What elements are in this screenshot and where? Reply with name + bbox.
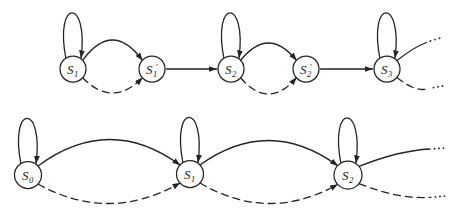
continuation-dot-b2-dashed-2	[444, 195, 446, 197]
continuation-b2-solid	[359, 149, 430, 166]
self-loop-a3	[377, 13, 396, 59]
continuation-dot-b2-solid-1	[438, 147, 440, 149]
state-node-a3: S3	[374, 56, 400, 82]
state-node-a1p: S1′	[139, 56, 165, 82]
self-loop-b2	[338, 118, 357, 164]
continuation-dot-b2-dashed-0	[435, 196, 437, 198]
state-node-b1: S1	[177, 161, 204, 188]
continuation-dot-b2-solid-0	[434, 148, 436, 150]
continuation-dot-a3-dashed-1	[437, 86, 439, 88]
continuation-dot-a3-solid-1	[434, 39, 436, 41]
edge-a1-a1p-solid	[83, 40, 143, 60]
edge-a2-a2p-dashed	[241, 78, 297, 94]
continuation-dot-a3-solid-2	[439, 37, 441, 39]
self-loop-a2	[221, 13, 240, 59]
continuation-a3-dashed	[397, 77, 429, 89]
continuation-a3-solid	[397, 43, 427, 61]
state-node-b2: S2	[334, 161, 362, 189]
edge-layer	[18, 13, 445, 204]
state-transition-diagram: S1S1′S2S2′S3S0S1S2	[0, 0, 467, 220]
self-loop-b1	[180, 117, 199, 163]
self-loop-a1	[63, 13, 82, 59]
continuation-dot-b2-solid-2	[443, 147, 445, 149]
edge-b1-b2-dashed	[200, 183, 338, 203]
state-node-a1: S1	[60, 56, 86, 82]
self-loop-b0	[18, 118, 37, 164]
continuation-dot-b2-dashed-1	[439, 196, 441, 198]
continuation-dot-a3-dashed-2	[442, 85, 444, 87]
edge-a1-a1p-dashed	[83, 78, 143, 93]
continuation-b2-dashed	[359, 184, 431, 198]
state-node-a2p: S2′	[293, 56, 319, 82]
continuation-dot-a3-dashed-0	[433, 87, 435, 89]
edge-b0-b1-solid	[38, 139, 180, 165]
edge-a2-a2p-solid	[241, 43, 297, 60]
state-node-a2: S2	[218, 56, 244, 82]
edge-b0-b1-dashed	[38, 183, 180, 203]
diagram-canvas: S1S1′S2S2′S3S0S1S2	[0, 0, 467, 220]
continuation-dot-a3-solid-0	[430, 40, 432, 42]
edge-b1-b2-solid	[200, 140, 338, 165]
state-node-b0: S0	[15, 162, 42, 189]
